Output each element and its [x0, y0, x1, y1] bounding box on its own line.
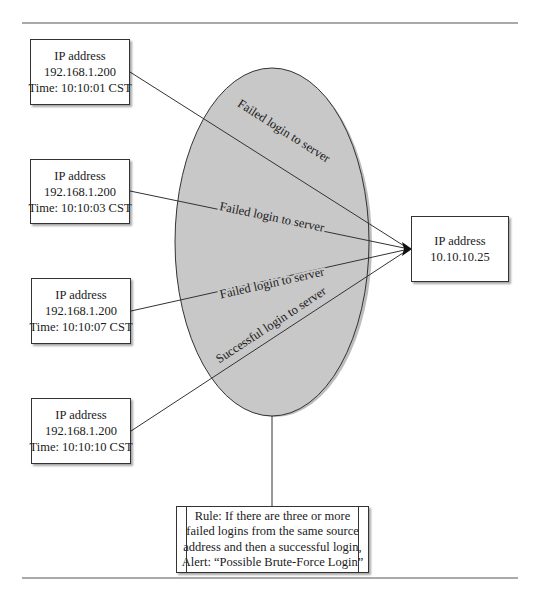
node-label: IP address — [55, 407, 106, 423]
target-node: IP address 10.10.10.25 — [411, 216, 509, 282]
node-ip: 192.168.1.200 — [44, 64, 116, 80]
node-ip: 10.10.10.25 — [430, 249, 489, 265]
node-ip: 192.168.1.200 — [45, 423, 117, 439]
node-ip: 192.168.1.200 — [45, 303, 117, 319]
node-label: IP address — [434, 233, 485, 249]
rule-line-1: Rule: If there are three or more — [177, 509, 368, 525]
source-node-4: IP address 192.168.1.200 Time: 10:10:10 … — [31, 398, 131, 464]
node-time: Time: 10:10:01 CST — [28, 80, 131, 96]
node-time: Time: 10:10:07 CST — [29, 319, 132, 335]
rule-node: Rule: If there are three or more failed … — [176, 506, 369, 573]
source-node-3: IP address 192.168.1.200 Time: 10:10:07 … — [31, 278, 131, 344]
node-ip: 192.168.1.200 — [44, 184, 116, 200]
source-node-2: IP address 192.168.1.200 Time: 10:10:03 … — [30, 159, 130, 224]
node-label: IP address — [54, 48, 105, 64]
rule-bar-left — [186, 507, 187, 572]
rule-line-2: failed logins from the same source — [177, 524, 368, 540]
source-node-1: IP address 192.168.1.200 Time: 10:10:01 … — [30, 39, 130, 105]
rule-line-3: address and then a successful login, — [177, 540, 368, 556]
node-time: Time: 10:10:03 CST — [28, 200, 131, 216]
rule-line-4: Alert: “Possible Brute-Force Login” — [177, 555, 368, 571]
node-label: IP address — [54, 168, 105, 184]
rule-bar-right — [358, 507, 359, 572]
node-label: IP address — [55, 287, 106, 303]
node-time: Time: 10:10:10 CST — [29, 439, 132, 455]
